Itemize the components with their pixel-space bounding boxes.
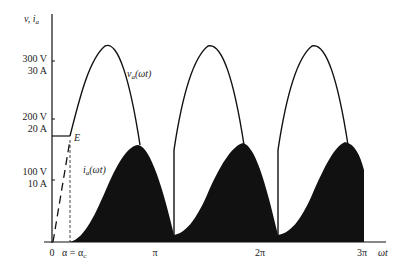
va-label: va(ωt) bbox=[127, 68, 152, 81]
tick-label-200v: 200 V bbox=[22, 111, 47, 122]
ia-label: ia(ωt) bbox=[83, 164, 106, 177]
ia-pulse-3 bbox=[278, 142, 364, 242]
tick-label-300v: 300 V bbox=[22, 53, 47, 64]
tick-label-100v: 100 V bbox=[22, 166, 47, 177]
tick-label-30a: 30 A bbox=[28, 65, 48, 76]
y-axis-label: v, ia bbox=[24, 13, 39, 26]
x-axis-label: ωt bbox=[378, 247, 388, 258]
ia-pulse-1 bbox=[70, 145, 174, 242]
e-label: E bbox=[73, 132, 80, 143]
chart: v, ia 300 V 30 A 200 V 20 A 100 V 10 A 0… bbox=[0, 0, 400, 266]
tick-label-20a: 20 A bbox=[28, 123, 48, 134]
x-label-0: 0 bbox=[50, 247, 55, 258]
ia-pulse-2 bbox=[174, 143, 278, 242]
x-label-2pi: 2π bbox=[255, 247, 265, 258]
x-label-alpha: α = αc bbox=[62, 247, 86, 260]
x-label-3pi: 3π bbox=[357, 247, 367, 258]
tick-label-10a: 10 A bbox=[28, 178, 48, 189]
x-label-pi: π bbox=[152, 247, 157, 258]
ramp-dashed bbox=[53, 140, 70, 242]
